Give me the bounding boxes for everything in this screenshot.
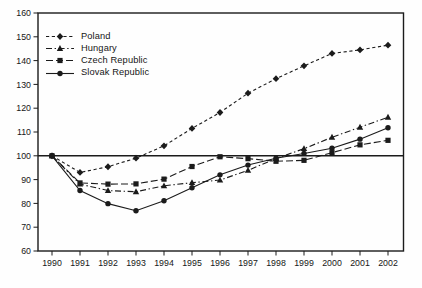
square-marker xyxy=(189,164,194,169)
circle-marker xyxy=(77,188,82,193)
triangle-marker xyxy=(245,167,251,173)
gdp-index-line-chart-figure: 6070809010011012013014015016019901991199… xyxy=(0,0,422,288)
diamond-marker xyxy=(245,90,252,97)
square-marker xyxy=(105,182,110,187)
circle-marker xyxy=(217,172,222,177)
y-tick-label: 100 xyxy=(16,151,31,161)
circle-marker xyxy=(385,125,390,130)
legend-item-czech-republic: Czech Republic xyxy=(46,55,149,67)
y-tick-label: 120 xyxy=(16,103,31,113)
circle-marker xyxy=(105,201,110,206)
square-marker xyxy=(161,177,166,182)
legend-item-poland: Poland xyxy=(46,30,149,42)
x-tick-label: 1991 xyxy=(70,258,90,268)
y-tick-label: 130 xyxy=(16,80,31,90)
circle-marker xyxy=(49,153,54,158)
y-tick-label: 90 xyxy=(21,175,31,185)
y-tick-label: 140 xyxy=(16,56,31,66)
diamond-marker xyxy=(105,163,112,170)
diamond-marker xyxy=(161,142,168,149)
circle-marker xyxy=(357,136,362,141)
x-tick-label: 1993 xyxy=(126,258,146,268)
diamond-marker xyxy=(77,169,84,176)
y-tick-label: 80 xyxy=(21,199,31,209)
diamond-marker xyxy=(57,33,64,40)
triangle-marker xyxy=(217,177,223,183)
square-marker xyxy=(301,158,306,163)
triangle-marker xyxy=(385,114,391,120)
diamond-marker xyxy=(385,42,392,49)
x-tick-label: 1992 xyxy=(98,258,118,268)
circle-marker xyxy=(329,145,334,150)
circle-marker xyxy=(301,151,306,156)
square-marker xyxy=(217,154,222,159)
legend-item-slovak-republic: Slovak Republic xyxy=(46,67,149,79)
diamond-marker-icon xyxy=(46,31,74,42)
diamond-marker xyxy=(301,62,308,69)
x-tick-label: 1996 xyxy=(210,258,230,268)
diamond-marker xyxy=(189,125,196,132)
square-marker xyxy=(57,58,62,63)
circle-marker xyxy=(189,185,194,190)
legend-item-hungary: Hungary xyxy=(46,42,149,54)
diamond-marker xyxy=(273,75,280,82)
legend-label: Czech Republic xyxy=(81,56,148,65)
legend-label: Poland xyxy=(81,32,111,41)
slovak-republic-line xyxy=(52,128,388,211)
diamond-marker xyxy=(329,50,336,57)
x-tick-label: 1999 xyxy=(294,258,314,268)
circle-marker-icon xyxy=(46,68,74,79)
square-marker xyxy=(357,142,362,147)
y-tick-label: 160 xyxy=(16,8,31,18)
legend-label: Hungary xyxy=(81,44,117,53)
x-tick-label: 1994 xyxy=(154,258,174,268)
chart-legend: Poland Hungary Czech Republic Slovak Rep… xyxy=(46,30,149,79)
y-tick-label: 60 xyxy=(21,246,31,256)
square-marker-icon xyxy=(46,55,74,66)
square-marker xyxy=(329,150,334,155)
y-tick-label: 70 xyxy=(21,222,31,232)
x-tick-label: 1997 xyxy=(238,258,258,268)
circle-marker xyxy=(273,155,278,160)
circle-marker xyxy=(133,208,138,213)
triangle-marker xyxy=(133,188,139,194)
legend-label: Slovak Republic xyxy=(81,68,149,77)
square-marker xyxy=(77,180,82,185)
diamond-marker xyxy=(217,109,224,116)
circle-marker xyxy=(245,162,250,167)
triangle-marker-icon xyxy=(46,43,74,54)
circle-marker xyxy=(57,70,62,75)
x-tick-label: 2002 xyxy=(378,258,398,268)
x-tick-label: 2000 xyxy=(322,258,342,268)
diamond-marker xyxy=(357,46,364,53)
x-tick-label: 1990 xyxy=(42,258,62,268)
x-tick-label: 1995 xyxy=(182,258,202,268)
circle-marker xyxy=(161,198,166,203)
y-tick-label: 150 xyxy=(16,32,31,42)
square-marker xyxy=(245,156,250,161)
y-tick-label: 110 xyxy=(17,127,31,137)
square-marker xyxy=(385,138,390,143)
x-tick-label: 2001 xyxy=(350,258,370,268)
square-marker xyxy=(133,181,138,186)
x-tick-label: 1998 xyxy=(266,258,286,268)
